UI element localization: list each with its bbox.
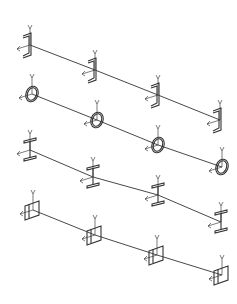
node-box (82, 215, 101, 245)
i-beam-section-icon (24, 138, 36, 161)
diagram-canvas (0, 0, 237, 304)
node-circular (19, 74, 40, 104)
axis-triad-icon (19, 74, 34, 100)
node-channel (17, 25, 32, 58)
node-channel (82, 50, 97, 83)
axis-triad-icon (209, 147, 224, 173)
node-channel (207, 100, 222, 133)
beam-line (33, 210, 222, 275)
beam-row-i-beam (17, 130, 227, 233)
beam-line (30, 150, 221, 222)
node-i-beam (145, 175, 164, 206)
node-circular (84, 100, 105, 130)
node-box (209, 255, 228, 285)
i-beam-section-icon (215, 210, 227, 233)
node-box (20, 190, 39, 220)
node-channel (145, 75, 160, 108)
i-beam-section-icon (87, 165, 99, 188)
node-box (144, 235, 163, 265)
beam-line (32, 94, 222, 167)
node-circular (209, 147, 230, 177)
beam-diagram (0, 0, 237, 304)
axis-triad-icon (145, 125, 160, 151)
axis-triad-icon (84, 100, 99, 126)
beam-row-box (20, 190, 228, 285)
beam-row-channel (17, 25, 222, 133)
node-circular (145, 125, 166, 155)
beam-row-circular (19, 74, 230, 177)
beam-line (30, 45, 220, 120)
node-i-beam (17, 130, 36, 161)
i-beam-section-icon (152, 183, 164, 206)
